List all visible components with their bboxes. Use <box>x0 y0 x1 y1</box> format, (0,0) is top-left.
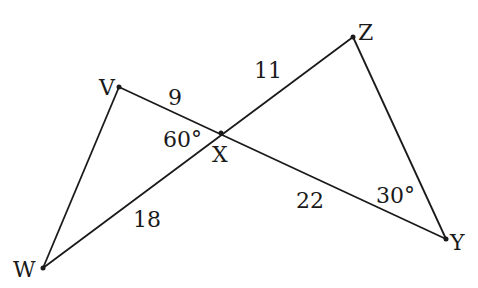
angle-XYZ: 30° <box>376 183 415 208</box>
label-V: V <box>98 75 116 100</box>
segment-VW <box>43 87 119 268</box>
geometry-diagram: V X Z Y W 9 11 18 22 60° 30° <box>0 0 478 288</box>
point-W <box>41 266 46 271</box>
length-XY: 22 <box>296 188 324 213</box>
label-W: W <box>13 257 36 282</box>
point-X <box>219 131 224 136</box>
angle-VXW: 60° <box>163 127 202 152</box>
segment-WZ <box>43 37 353 268</box>
segment-ZY <box>353 37 446 239</box>
label-Z: Z <box>358 20 373 45</box>
point-Y <box>444 237 449 242</box>
label-X: X <box>212 142 228 167</box>
point-V <box>117 85 122 90</box>
length-XZ: 11 <box>254 58 282 83</box>
length-WX: 18 <box>133 207 161 232</box>
label-Y: Y <box>449 230 465 255</box>
length-VX: 9 <box>168 85 182 110</box>
point-Z <box>351 35 356 40</box>
